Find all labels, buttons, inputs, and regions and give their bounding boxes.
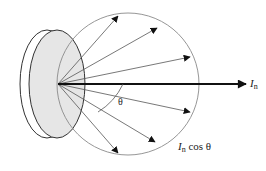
lambertian-emission-diagram — [0, 0, 266, 171]
normal-intensity-label: In — [250, 78, 258, 91]
angled-intensity-suffix: cos θ — [186, 140, 211, 152]
angled-intensity-label: In cos θ — [178, 141, 211, 154]
normal-intensity-subscript: n — [254, 82, 258, 91]
angle-theta-label: θ — [118, 97, 123, 107]
angle-theta-symbol: θ — [118, 96, 123, 107]
